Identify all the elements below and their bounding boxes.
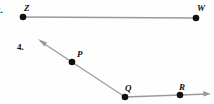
point-label-q: Q — [125, 84, 132, 93]
point-q-dot — [122, 94, 129, 101]
figure-segment-zw — [20, 14, 200, 22]
point-label-z: Z — [24, 4, 30, 13]
point-label-p: P — [77, 50, 83, 59]
point-w-dot — [193, 15, 200, 22]
problem-number-2: 2. — [0, 6, 3, 15]
geometry-figure-canvas: 2. 4. Z W P Q R — [0, 0, 214, 104]
point-p-dot — [69, 59, 76, 66]
problem-number-4: 4. — [17, 43, 24, 52]
right-arrowhead-icon — [203, 91, 211, 97]
point-r-dot — [177, 92, 184, 99]
point-label-r: R — [179, 83, 185, 92]
ray-segment-lower — [125, 94, 208, 97]
point-label-w: W — [197, 4, 205, 13]
point-z-dot — [20, 14, 27, 21]
segment-zw-line — [23, 17, 196, 18]
